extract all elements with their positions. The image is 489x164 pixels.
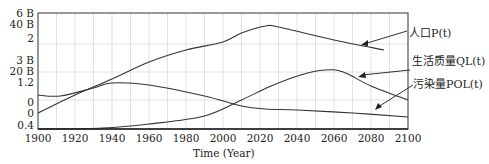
grid-lines xyxy=(38,13,408,129)
legend-pollution: 污染量POL(t) xyxy=(413,75,483,91)
legend-pollution-prefix: 污染量 xyxy=(413,78,446,91)
legend-population-prefix: 人口 xyxy=(409,27,431,40)
x-tick-label: 2080 xyxy=(351,132,391,144)
legend-pollution-var: POL(t) xyxy=(446,78,483,91)
x-tick-label: 2060 xyxy=(314,132,354,144)
y-tick-label: 40 B xyxy=(10,19,34,30)
legend-population: 人口P(t) xyxy=(409,24,451,40)
y-tick-label: 2 xyxy=(27,33,34,44)
x-axis-label: Time (Year) xyxy=(193,147,255,159)
legend-quality: 生活质量QL(t) xyxy=(412,52,485,68)
y-tick-label: 0 xyxy=(27,108,34,119)
arrow-quality xyxy=(362,70,410,75)
x-tick-label: 2100 xyxy=(388,132,428,144)
arrow-population xyxy=(364,31,407,44)
legend-population-var: P(t) xyxy=(431,27,451,40)
x-tick-label: 1900 xyxy=(18,132,58,144)
arrowhead-population-icon xyxy=(361,40,368,46)
x-tick-label: 2020 xyxy=(240,132,280,144)
x-tick-label: 1980 xyxy=(166,132,206,144)
legend-arrows xyxy=(358,31,413,110)
legend-quality-var: QL(t) xyxy=(456,55,485,68)
x-tick-label: 1920 xyxy=(55,132,95,144)
y-tick-label: 0.4 xyxy=(17,120,34,131)
arrowhead-pollution-icon xyxy=(375,103,382,110)
x-tick-label: 1940 xyxy=(92,132,132,144)
legend-quality-prefix: 生活质量 xyxy=(412,55,456,68)
y-tick-label: 1.2 xyxy=(17,77,34,88)
x-tick-label: 1960 xyxy=(129,132,169,144)
x-tick-label: 2000 xyxy=(203,132,243,144)
x-tick-label: 2040 xyxy=(277,132,317,144)
arrowhead-quality-icon xyxy=(358,72,366,78)
